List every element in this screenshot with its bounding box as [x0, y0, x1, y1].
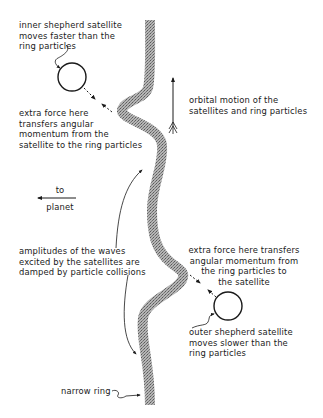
inner-force-label: extra force here transfers angular momen… — [19, 108, 142, 150]
outer-satellite-label: outer shepherd satellite moves slower th… — [189, 327, 293, 359]
outer-force-arrow-in — [208, 290, 216, 297]
inner-satellite — [58, 63, 86, 91]
amplitudes-label: amplitudes of the waves excited by the s… — [19, 246, 146, 278]
inner-satellite-label: inner shepherd satellite moves faster th… — [19, 20, 122, 52]
amplitudes-leader-up — [116, 170, 142, 248]
outer-force-label: extra force here transfers angular momen… — [180, 245, 308, 287]
to-planet-label-bottom: planet — [44, 202, 76, 213]
outer-satellite — [214, 292, 242, 320]
narrow-ring-leader — [112, 390, 140, 397]
amplitudes-leader-down — [124, 275, 136, 354]
orbital-motion-label: orbital motion of the satellites and rin… — [189, 95, 307, 116]
outer-satellite-leader — [192, 314, 214, 328]
inner-force-arrow-out — [84, 88, 95, 99]
narrow-ring-label: narrow ring — [61, 386, 111, 397]
to-planet-label-top: to — [48, 185, 72, 196]
